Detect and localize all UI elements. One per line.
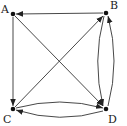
edge-c-to-d: [16, 102, 103, 108]
node-b: [104, 11, 109, 16]
edge-b-to-a: [16, 13, 103, 14]
node-label-b: B: [110, 0, 118, 12]
edge-b-to-d: [98, 16, 104, 106]
node-a: [11, 12, 16, 17]
edge-d-to-c: [16, 110, 103, 117]
node-label-a: A: [0, 3, 10, 16]
node-label-c: C: [3, 113, 11, 126]
node-c: [11, 107, 16, 112]
edge-d-to-b: [108, 16, 114, 106]
node-label-d: D: [108, 113, 117, 126]
node-d: [104, 107, 109, 112]
directed-graph: A B C D: [0, 0, 127, 126]
